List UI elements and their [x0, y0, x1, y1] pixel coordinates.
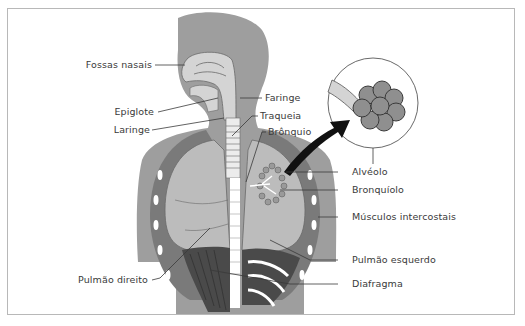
- label-traqueia: Traqueia: [260, 110, 301, 121]
- label-epiglote: Epiglote: [80, 106, 154, 117]
- label-diafragma: Diafragma: [352, 278, 403, 289]
- label-faringe: Faringe: [265, 92, 301, 103]
- trachea: [226, 118, 240, 178]
- label-bronquiolo: Bronquíolo: [352, 184, 404, 195]
- label-pulmao-esquerdo: Pulmão esquerdo: [352, 254, 436, 265]
- label-fossas-nasais: Fossas nasais: [60, 59, 152, 70]
- label-laringe: Laringe: [80, 124, 150, 135]
- sternum: [230, 178, 240, 308]
- label-pulmao-direito: Pulmão direito: [60, 274, 148, 285]
- label-alveolo: Alvéolo: [352, 166, 388, 177]
- label-bronquio: Brônquio: [268, 126, 311, 137]
- label-musculos-intercostais: Músculos intercostais: [352, 211, 456, 222]
